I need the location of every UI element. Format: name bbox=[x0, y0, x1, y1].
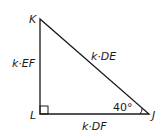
side-label-kl: k·EF bbox=[12, 57, 36, 70]
right-angle-marker bbox=[40, 106, 48, 114]
vertex-label-k: K bbox=[29, 13, 37, 26]
angle-label-j: 40° bbox=[113, 101, 133, 114]
angle-arc-j bbox=[140, 108, 142, 114]
triangle-klj bbox=[40, 19, 149, 114]
triangle-diagram: K L J k·EF k·DE k·DF 40° bbox=[0, 0, 165, 137]
vertex-label-l: L bbox=[30, 109, 36, 122]
vertex-label-j: J bbox=[150, 109, 155, 122]
side-label-lj: k·DF bbox=[82, 120, 107, 133]
side-label-kj: k·DE bbox=[91, 50, 116, 63]
